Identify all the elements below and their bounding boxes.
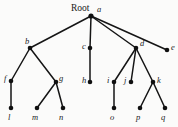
tree-node-q <box>163 106 168 111</box>
tree-edge-b-f <box>11 48 30 81</box>
root-caption: Root <box>71 4 89 14</box>
tree-node-label-e: e <box>171 43 175 52</box>
tree-node-label-j: j <box>124 76 126 85</box>
tree-node-label-p: p <box>136 113 140 122</box>
tree-node-o <box>112 106 117 111</box>
node-layer <box>9 13 170 110</box>
tree-edge-g-n <box>56 82 63 108</box>
tree-node-d <box>134 46 139 51</box>
tree-node-g <box>54 80 59 85</box>
tree-node-label-f: f <box>4 74 6 83</box>
tree-node-k <box>151 80 156 85</box>
tree-node-label-b: b <box>25 37 29 46</box>
tree-node-a <box>88 13 93 18</box>
tree-node-h <box>88 80 93 85</box>
tree-edge-k-q <box>153 82 165 108</box>
tree-node-label-l: l <box>8 113 10 122</box>
tree-node-label-k: k <box>157 76 161 85</box>
tree-edge-k-p <box>140 82 153 108</box>
tree-node-label-h: h <box>82 76 86 85</box>
tree-edge-a-c <box>90 16 91 48</box>
tree-node-label-c: c <box>82 42 86 51</box>
tree-edge-b-g <box>30 48 56 82</box>
edge-layer <box>11 16 167 108</box>
tree-node-label-g: g <box>59 74 63 83</box>
tree-edge-g-m <box>37 82 56 108</box>
tree-node-n <box>61 106 66 111</box>
tree-node-i <box>112 80 117 85</box>
tree-node-l <box>9 106 14 111</box>
tree-node-label-m: m <box>32 113 38 122</box>
tree-edge-a-e <box>91 16 167 50</box>
tree-node-j <box>129 80 134 85</box>
tree-node-label-i: i <box>107 76 109 85</box>
tree-edge-d-k <box>136 48 153 82</box>
tree-node-b <box>28 46 33 51</box>
tree-node-label-d: d <box>140 39 144 48</box>
tree-node-e <box>165 48 170 53</box>
tree-diagram: Root abcdefghijklmnopq <box>0 0 178 127</box>
tree-node-m <box>35 106 40 111</box>
tree-node-p <box>138 106 143 111</box>
tree-node-label-n: n <box>59 113 63 122</box>
tree-edge-a-d <box>91 16 136 48</box>
tree-graphics <box>0 0 178 127</box>
tree-node-label-a: a <box>97 5 101 14</box>
tree-node-c <box>88 46 93 51</box>
tree-node-label-q: q <box>161 113 165 122</box>
tree-node-f <box>9 79 14 84</box>
tree-node-label-o: o <box>110 113 114 122</box>
